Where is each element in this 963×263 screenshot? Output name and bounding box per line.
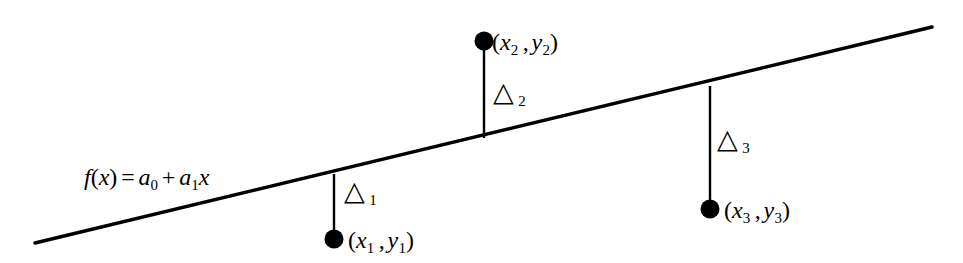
equation-open-paren: ( xyxy=(91,164,99,190)
point2-x-variable: x xyxy=(500,29,511,55)
diagram-graphics xyxy=(0,0,963,263)
point3-close-paren: ) xyxy=(782,197,790,223)
point1-open-paren: ( xyxy=(348,227,356,253)
point2-y-variable: y xyxy=(532,29,543,55)
equation-function-name: f xyxy=(84,164,91,190)
equation-term1-coeff: a xyxy=(139,164,151,190)
data-point-label-1: (x1,y1) xyxy=(348,228,414,256)
data-point-dot-1 xyxy=(325,230,344,249)
point3-x-variable: x xyxy=(732,197,743,223)
equation-equals-sign: = xyxy=(117,164,138,190)
equation-term1-subscript: 0 xyxy=(151,177,159,193)
delta-triangle-icon-3: △ xyxy=(717,124,738,154)
residual-label-3: △3 xyxy=(717,126,750,156)
point2-open-paren: ( xyxy=(492,29,500,55)
point2-close-paren: ) xyxy=(550,29,558,55)
residual-label-1: △1 xyxy=(344,178,377,208)
figure-canvas: f(x)=a0+a1x (x1,y1) (x2,y2) (x3,y3) △1 △… xyxy=(0,0,963,263)
point3-open-paren: ( xyxy=(724,197,732,223)
data-point-label-3: (x3,y3) xyxy=(724,198,790,226)
equation-term2-coeff: a xyxy=(179,164,191,190)
point1-x-variable: x xyxy=(356,227,367,253)
residual-label-2: △2 xyxy=(493,79,526,109)
delta-triangle-icon-1: △ xyxy=(344,176,365,206)
equation-term2-variable: x xyxy=(199,164,210,190)
data-point-dot-3 xyxy=(701,200,720,219)
regression-equation-label: f(x)=a0+a1x xyxy=(84,165,209,193)
point2-comma: , xyxy=(518,29,531,55)
data-point-label-2: (x2,y2) xyxy=(492,30,558,58)
point1-comma: , xyxy=(374,227,387,253)
point3-y-variable: y xyxy=(764,197,775,223)
equation-term2-subscript: 1 xyxy=(191,177,199,193)
delta-subscript-1: 1 xyxy=(365,192,377,208)
data-point-dot-2 xyxy=(475,32,494,51)
equation-plus-sign: + xyxy=(158,164,179,190)
point3-y-subscript: 3 xyxy=(774,210,782,226)
point3-comma: , xyxy=(750,197,763,223)
delta-subscript-2: 2 xyxy=(514,93,526,109)
delta-subscript-3: 3 xyxy=(738,140,750,156)
point1-y-variable: y xyxy=(388,227,399,253)
point1-close-paren: ) xyxy=(406,227,414,253)
point1-y-subscript: 1 xyxy=(398,240,406,256)
equation-variable: x xyxy=(99,164,110,190)
point2-y-subscript: 2 xyxy=(542,42,550,58)
delta-triangle-icon-2: △ xyxy=(493,77,514,107)
